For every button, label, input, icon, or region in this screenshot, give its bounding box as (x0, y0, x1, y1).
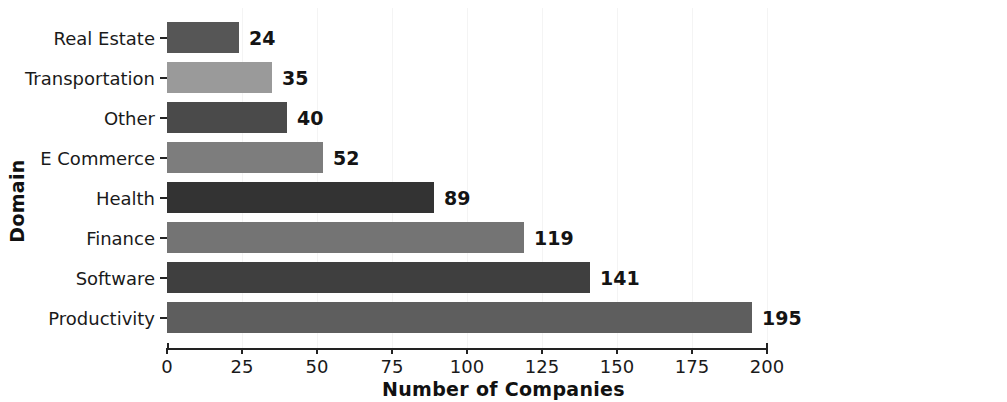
y-axis-tick-label: Software (76, 267, 155, 288)
bar[interactable] (167, 22, 239, 53)
y-axis-tick-mark (160, 237, 167, 239)
x-axis-tick-mark (616, 348, 618, 354)
x-axis-tick-mark (316, 348, 318, 354)
bar-value-label: 89 (444, 187, 470, 209)
bar-value-label: 40 (297, 107, 323, 129)
x-axis-tick-label: 200 (750, 356, 784, 377)
y-axis-tick-label: Real Estate (54, 27, 156, 48)
y-axis-tick-label: E Commerce (40, 147, 155, 168)
x-axis-tick-mark (391, 348, 393, 354)
bar[interactable] (167, 182, 434, 213)
x-axis-tick-label: 175 (675, 356, 709, 377)
x-axis-tick-label: 50 (306, 356, 329, 377)
bar[interactable] (167, 262, 590, 293)
y-axis-tick: E Commerce (0, 142, 167, 173)
plot-area: 2435405289119141195 (167, 8, 767, 348)
bar-row: 141 (167, 262, 767, 293)
bar-row: 40 (167, 102, 767, 133)
x-axis-tick-mark (466, 348, 468, 354)
y-axis-tick: Other (0, 102, 167, 133)
gridline (767, 8, 768, 348)
x-axis-tick-mark (241, 348, 243, 354)
bar-row: 24 (167, 22, 767, 53)
y-axis-tick: Software (0, 262, 167, 293)
bar-row: 35 (167, 62, 767, 93)
bar[interactable] (167, 142, 323, 173)
x-axis-tick-mark (166, 348, 168, 354)
x-axis-tick-label: 125 (525, 356, 559, 377)
x-axis-tick-label: 100 (450, 356, 484, 377)
bar-row: 195 (167, 302, 767, 333)
y-axis-tick-mark (160, 117, 167, 119)
bars-layer: 2435405289119141195 (167, 8, 767, 348)
x-axis-tick-mark (766, 348, 768, 354)
y-axis-tick: Health (0, 182, 167, 213)
x-axis-tick-label: 25 (231, 356, 254, 377)
bar-row: 89 (167, 182, 767, 213)
y-axis-tick-label: Other (104, 107, 155, 128)
bar[interactable] (167, 62, 272, 93)
bar-row: 52 (167, 142, 767, 173)
y-axis-tick-mark (160, 77, 167, 79)
bar-value-label: 52 (333, 147, 359, 169)
y-axis-tick: Finance (0, 222, 167, 253)
y-axis-tick-label: Transportation (25, 67, 155, 88)
bar-value-label: 35 (282, 67, 308, 89)
x-axis-tick-label: 0 (161, 356, 172, 377)
y-axis-tick: Real Estate (0, 22, 167, 53)
bar-row: 119 (167, 222, 767, 253)
y-axis-tick: Productivity (0, 302, 167, 333)
x-axis-tick-label: 75 (381, 356, 404, 377)
y-axis-tick-mark (160, 317, 167, 319)
y-axis-tick-label: Finance (86, 227, 155, 248)
bar-value-label: 141 (600, 267, 640, 289)
bar-value-label: 119 (534, 227, 574, 249)
bar-value-label: 195 (762, 307, 802, 329)
y-axis-tick-mark (160, 37, 167, 39)
x-axis-tick-mark (541, 348, 543, 354)
y-axis-tick-label: Productivity (48, 307, 155, 328)
x-axis-title: Number of Companies (0, 378, 1007, 400)
y-axis-tick-mark (160, 197, 167, 199)
x-axis-tick-mark (691, 348, 693, 354)
bar-chart: Domain 2435405289119141195 Real EstateTr… (0, 0, 1007, 402)
bar[interactable] (167, 222, 524, 253)
y-axis-tick-label: Health (96, 187, 155, 208)
bar[interactable] (167, 302, 752, 333)
y-axis-tick-mark (160, 157, 167, 159)
bar-value-label: 24 (249, 27, 275, 49)
y-axis-tick-mark (160, 277, 167, 279)
bar[interactable] (167, 102, 287, 133)
y-axis-tick: Transportation (0, 62, 167, 93)
x-axis-tick-label: 150 (600, 356, 634, 377)
